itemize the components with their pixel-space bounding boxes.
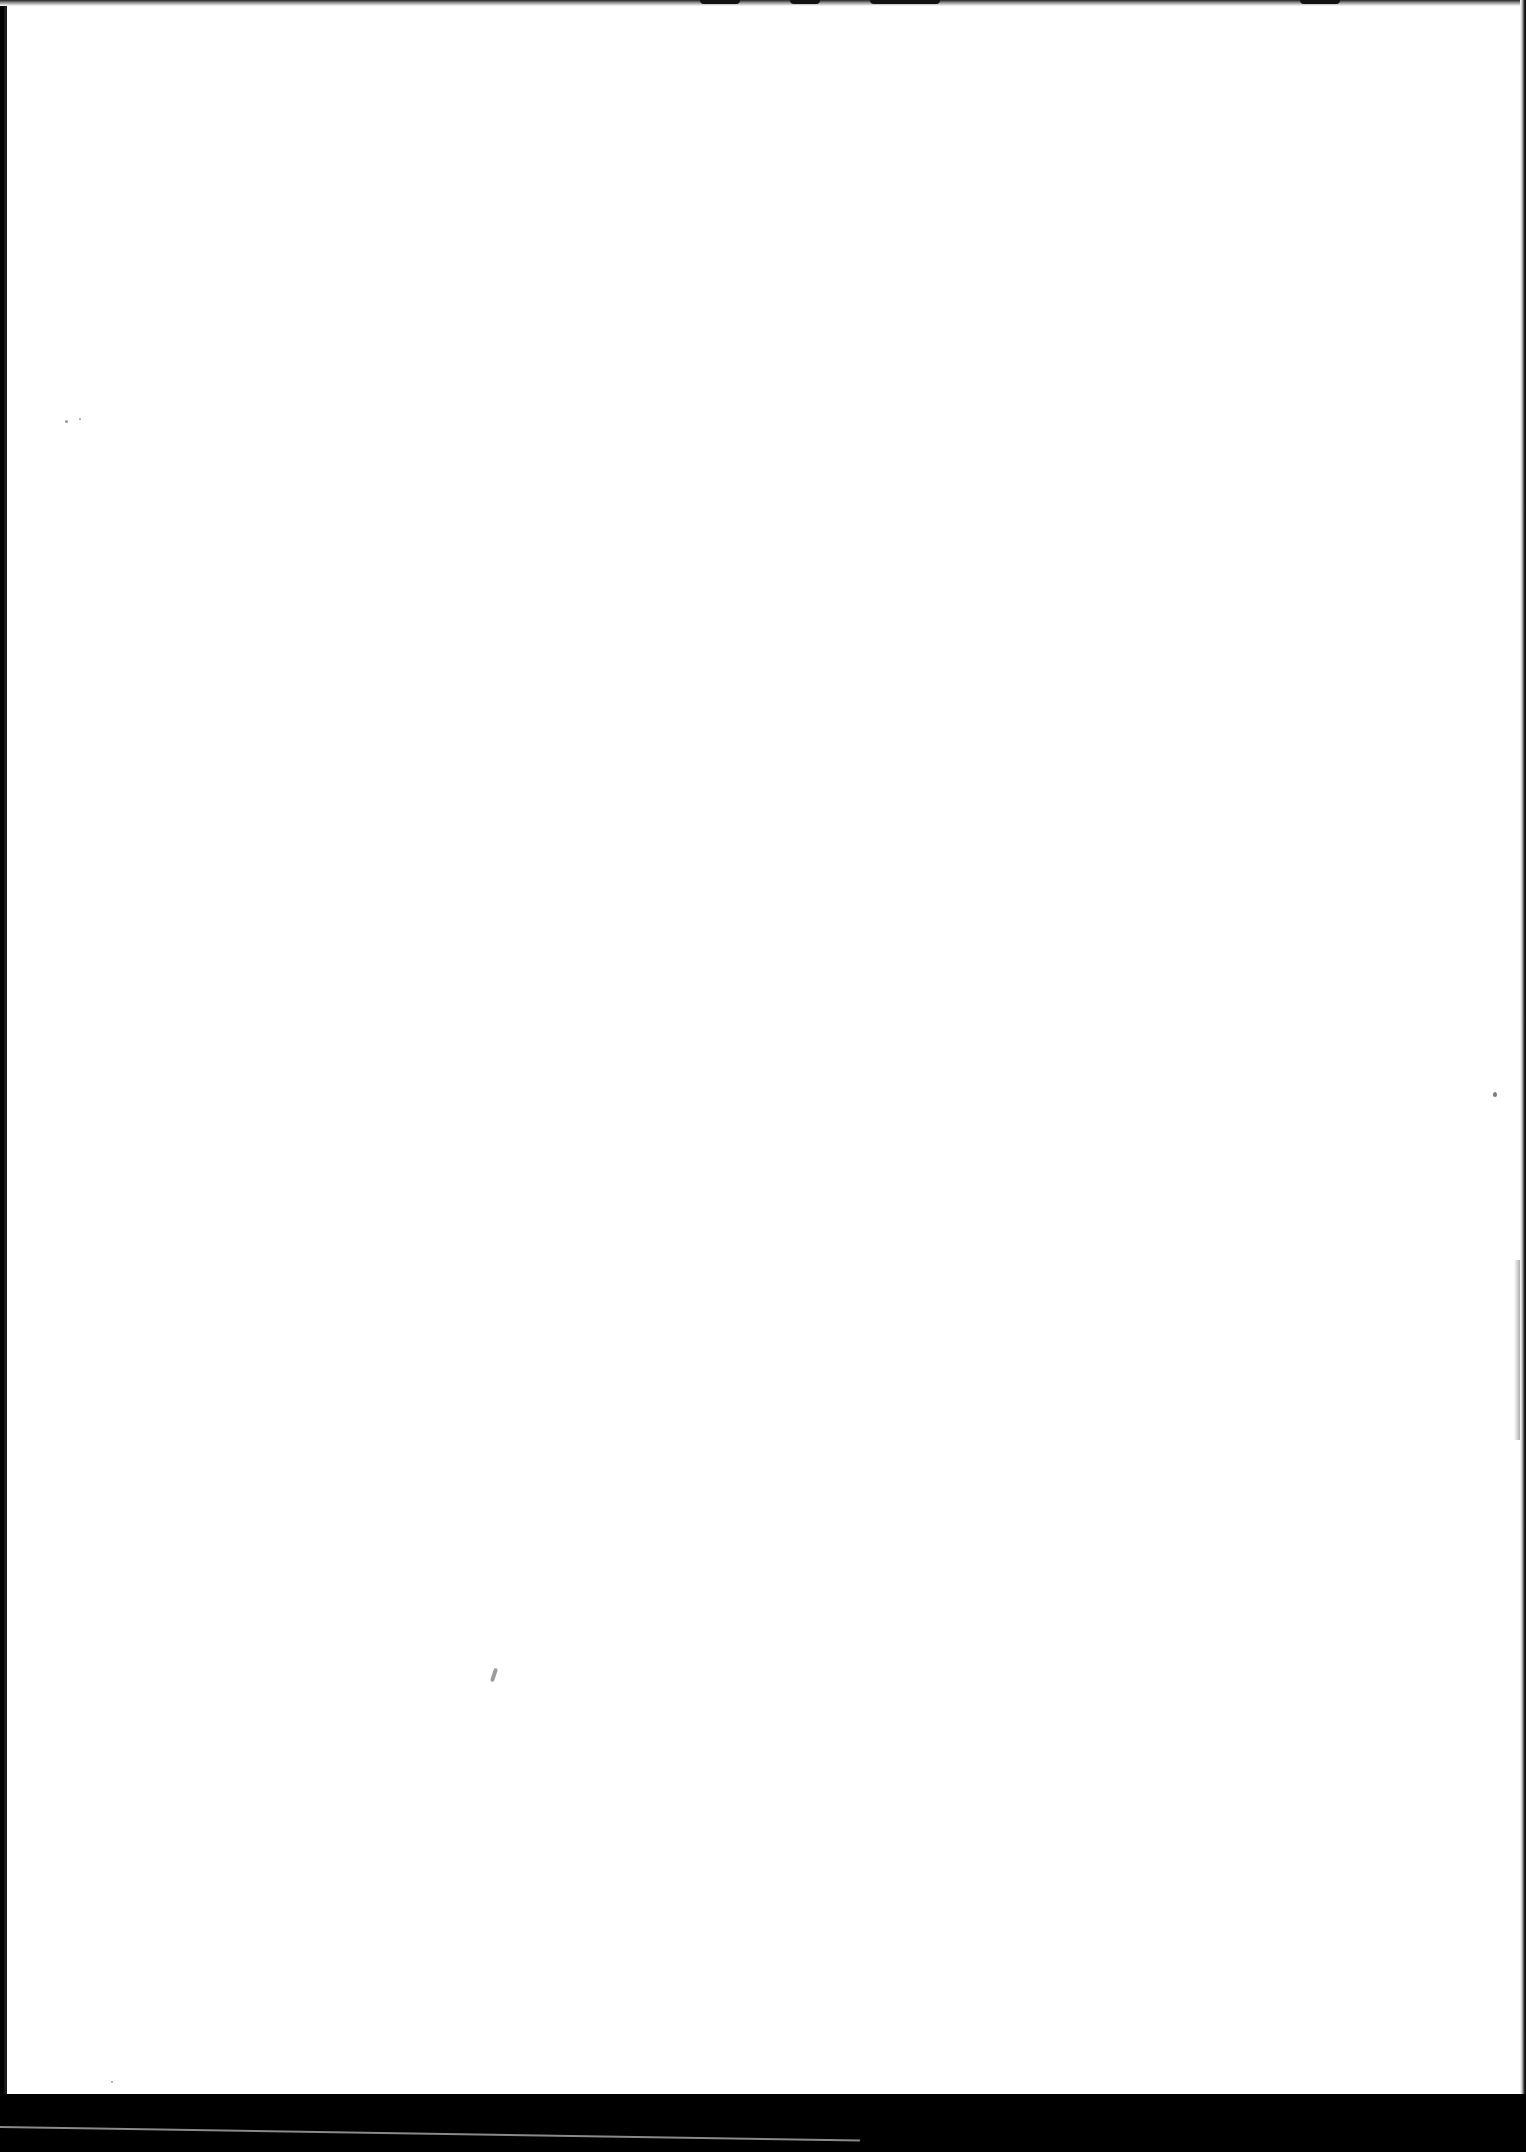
scan-speck	[1493, 1092, 1497, 1097]
scan-speck	[65, 420, 68, 423]
blank-page	[4, 4, 1520, 2094]
scanned-document	[0, 0, 1526, 2152]
scan-right-shadow	[1514, 1260, 1520, 1440]
scan-speck	[111, 2081, 113, 2083]
scan-speck	[79, 418, 81, 420]
scan-bottom-border	[0, 2094, 1526, 2152]
scan-top-edge	[0, 0, 1526, 6]
scan-right-edge	[1520, 0, 1526, 2100]
